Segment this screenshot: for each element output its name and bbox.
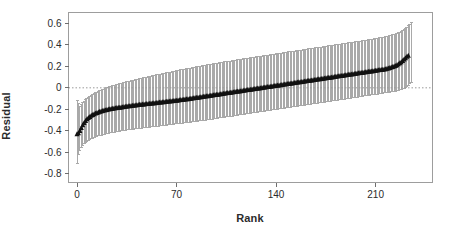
svg-text:210: 210 bbox=[367, 189, 384, 200]
residual-rank-chart: 0.60.40.20-0.2-0.4-0.6-0.8070140210 Resi… bbox=[0, 0, 457, 232]
y-axis-title: Residual bbox=[0, 92, 12, 139]
svg-text:-0.2: -0.2 bbox=[44, 104, 62, 115]
chart-canvas: 0.60.40.20-0.2-0.4-0.6-0.8070140210 bbox=[0, 0, 457, 232]
svg-text:0.4: 0.4 bbox=[48, 39, 62, 50]
svg-text:-0.6: -0.6 bbox=[44, 147, 62, 158]
svg-text:-0.8: -0.8 bbox=[44, 168, 62, 179]
svg-text:0: 0 bbox=[74, 189, 80, 200]
svg-text:-0.4: -0.4 bbox=[44, 125, 62, 136]
svg-text:0.2: 0.2 bbox=[48, 61, 62, 72]
svg-text:140: 140 bbox=[268, 189, 285, 200]
svg-text:70: 70 bbox=[171, 189, 183, 200]
svg-text:0: 0 bbox=[56, 82, 62, 93]
x-axis-title: Rank bbox=[236, 212, 264, 224]
svg-text:0.6: 0.6 bbox=[48, 18, 62, 29]
